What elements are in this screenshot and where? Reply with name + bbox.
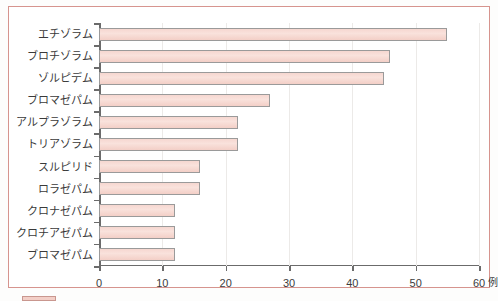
- category-label: ロラゼパム: [38, 181, 93, 197]
- bar-row: クロナゼパム: [99, 200, 479, 222]
- bar-row: アルプラゾラム: [99, 111, 479, 133]
- category-label: ブロマゼパム: [27, 247, 93, 263]
- x-tick-0: [99, 266, 101, 271]
- bar: [99, 116, 238, 129]
- bar: [99, 50, 390, 63]
- bar: [99, 28, 447, 41]
- x-tick-label-0: 0: [96, 277, 102, 289]
- x-tick-label-40: 40: [346, 277, 358, 289]
- bar-rows: エチゾラムブロチゾラムゾルピデムブロマゼパムアルプラゾラムトリアゾラムスルピリド…: [99, 23, 479, 266]
- x-tick-30: [289, 266, 291, 271]
- bar-row: トリアゾラム: [99, 133, 479, 155]
- category-label: エチゾラム: [38, 26, 93, 42]
- x-tick-label-20: 20: [220, 277, 232, 289]
- category-label: スルピリド: [38, 159, 93, 175]
- bar-row: エチゾラム: [99, 23, 479, 45]
- bar: [99, 182, 200, 195]
- x-tick-label-10: 10: [156, 277, 168, 289]
- category-label: トリアゾラム: [27, 136, 93, 152]
- category-label: ブロマゼパム: [27, 92, 93, 108]
- bar: [99, 160, 200, 173]
- x-axis-unit-label: 例: [488, 274, 498, 289]
- bar-row: ブロマゼパム: [99, 89, 479, 111]
- bar: [99, 138, 238, 151]
- category-label: クロチアゼパム: [16, 225, 93, 241]
- x-tick-50: [416, 266, 418, 271]
- category-label: ゾルピデム: [38, 70, 93, 86]
- figure-container: 0102030405060 エチゾラムブロチゾラムゾルピデムブロマゼパムアルプラ…: [0, 0, 498, 301]
- category-label: ブロチゾラム: [27, 48, 93, 64]
- bar-row: スルピリド: [99, 156, 479, 178]
- bar-row: ロラゼパム: [99, 178, 479, 200]
- figure-caption: [22, 296, 62, 301]
- x-tick-10: [162, 266, 164, 271]
- bar-row: ブロチゾラム: [99, 45, 479, 67]
- legend-swatch-icon: [22, 296, 56, 301]
- category-label: アルプラゾラム: [16, 114, 93, 130]
- bar-row: ブロマゼパム: [99, 244, 479, 266]
- x-tick-40: [352, 266, 354, 271]
- x-tick-60: [479, 266, 481, 271]
- bar: [99, 248, 175, 261]
- plot-area: 0102030405060 エチゾラムブロチゾラムゾルピデムブロマゼパムアルプラ…: [99, 23, 479, 266]
- bar: [99, 204, 175, 217]
- x-tick-label-50: 50: [410, 277, 422, 289]
- category-label: クロナゼパム: [27, 203, 93, 219]
- x-tick-label-30: 30: [283, 277, 295, 289]
- bar-row: ゾルピデム: [99, 67, 479, 89]
- figure-frame: 0102030405060 エチゾラムブロチゾラムゾルピデムブロマゼパムアルプラ…: [8, 6, 490, 288]
- bar: [99, 226, 175, 239]
- x-tick-20: [226, 266, 228, 271]
- y-tick: [94, 266, 99, 268]
- x-tick-label-60: 60: [473, 277, 485, 289]
- bar: [99, 94, 270, 107]
- gridline-60: [479, 23, 480, 266]
- bar: [99, 72, 384, 85]
- bar-row: クロチアゼパム: [99, 222, 479, 244]
